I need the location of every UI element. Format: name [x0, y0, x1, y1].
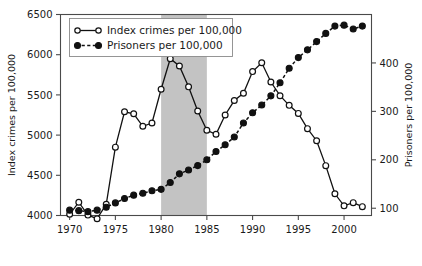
y-left-tick-label: 6000	[27, 49, 52, 60]
data-point-prisoners	[295, 55, 301, 61]
data-point-index-crimes	[195, 108, 201, 114]
data-point-index-crimes	[204, 127, 210, 133]
y-left-tick-label: 5500	[27, 90, 52, 101]
x-tick-label: 1985	[194, 224, 219, 235]
data-point-prisoners	[195, 163, 201, 169]
data-point-index-crimes	[158, 86, 164, 92]
data-point-prisoners	[85, 209, 91, 215]
data-point-index-crimes	[222, 112, 228, 118]
data-point-prisoners	[149, 188, 155, 194]
legend-label-prisoners: Prisoners per 100,000	[107, 39, 223, 51]
data-point-prisoners	[186, 167, 192, 173]
data-point-prisoners	[323, 30, 329, 36]
data-point-index-crimes	[149, 120, 155, 126]
y-left-tick-label: 4500	[27, 170, 52, 181]
y-right-tick-label: 300	[380, 106, 399, 117]
data-point-index-crimes	[186, 84, 192, 90]
x-tick-label: 1980	[148, 224, 173, 235]
data-point-prisoners	[277, 80, 283, 86]
chart-legend: Index crimes per 100,000 Prisoners per 1…	[70, 19, 242, 57]
data-point-prisoners	[67, 207, 73, 213]
x-tick-label: 1990	[240, 224, 265, 235]
data-point-prisoners	[304, 47, 310, 53]
data-point-prisoners	[76, 208, 82, 214]
x-tick-label: 2000	[331, 224, 356, 235]
legend-label-index-crimes: Index crimes per 100,000	[107, 24, 242, 36]
data-point-index-crimes	[295, 110, 301, 116]
x-tick-label: 1995	[286, 224, 311, 235]
data-point-prisoners	[268, 93, 274, 99]
chart-container: 1970197519801985199019952000 65006000550…	[0, 0, 422, 266]
data-point-prisoners	[332, 23, 338, 29]
data-point-index-crimes	[112, 144, 118, 150]
x-tick-label: 1970	[57, 224, 82, 235]
legend-marker-filled-circle-left	[75, 43, 81, 49]
data-point-prisoners	[167, 180, 173, 186]
data-point-index-crimes	[341, 203, 347, 209]
data-point-index-crimes	[277, 93, 283, 99]
y-left-tick-label: 5000	[27, 130, 52, 141]
data-point-prisoners	[222, 142, 228, 148]
data-point-prisoners	[176, 171, 182, 177]
y-left-tick-label: 6500	[27, 9, 52, 20]
data-point-index-crimes	[332, 191, 338, 197]
data-point-prisoners	[103, 204, 109, 210]
data-point-prisoners	[259, 102, 265, 108]
data-point-index-crimes	[177, 63, 183, 69]
y-axis-left-title: Index crimes per 100,000	[6, 54, 17, 176]
data-point-prisoners	[350, 26, 356, 32]
data-point-prisoners	[359, 23, 365, 29]
data-point-index-crimes	[241, 90, 247, 96]
data-point-prisoners	[204, 157, 210, 163]
data-point-index-crimes	[231, 98, 237, 104]
data-point-index-crimes	[350, 200, 356, 206]
data-point-index-crimes	[286, 102, 292, 108]
data-point-prisoners	[213, 149, 219, 155]
legend-marker-open-circle-right	[96, 28, 101, 33]
y-right-tick-label: 400	[380, 58, 399, 69]
data-point-index-crimes	[259, 60, 265, 66]
data-point-prisoners	[314, 39, 320, 45]
data-point-prisoners	[250, 110, 256, 116]
y-right-tick-label: 100	[380, 203, 399, 214]
data-point-index-crimes	[314, 138, 320, 144]
data-point-index-crimes	[305, 126, 311, 132]
x-tick-label: 1975	[103, 224, 128, 235]
data-point-prisoners	[131, 192, 137, 198]
y-right-tick-label: 200	[380, 154, 399, 165]
data-point-index-crimes	[213, 131, 219, 137]
data-point-index-crimes	[122, 109, 128, 115]
data-point-prisoners	[286, 65, 292, 71]
data-point-index-crimes	[131, 111, 137, 117]
data-point-prisoners	[140, 190, 146, 196]
data-point-index-crimes	[94, 216, 100, 222]
legend-marker-open-circle-left	[75, 28, 80, 33]
y-axis-right-title: Prisoners per 100,000	[403, 63, 414, 168]
data-point-prisoners	[240, 120, 246, 126]
data-point-prisoners	[112, 200, 118, 206]
data-point-prisoners	[231, 134, 237, 140]
data-point-prisoners	[341, 22, 347, 28]
data-point-index-crimes	[268, 79, 274, 85]
y-left-tick-label: 4000	[27, 210, 52, 221]
data-point-prisoners	[158, 186, 164, 192]
data-point-index-crimes	[76, 199, 82, 205]
data-point-prisoners	[94, 207, 100, 213]
legend-marker-filled-circle-right	[96, 43, 102, 49]
data-point-prisoners	[122, 196, 128, 202]
data-point-index-crimes	[359, 204, 365, 210]
dual-axis-line-chart: 1970197519801985199019952000 65006000550…	[0, 0, 422, 266]
data-point-index-crimes	[140, 123, 146, 129]
data-point-index-crimes	[323, 163, 329, 169]
data-point-index-crimes	[250, 69, 256, 75]
